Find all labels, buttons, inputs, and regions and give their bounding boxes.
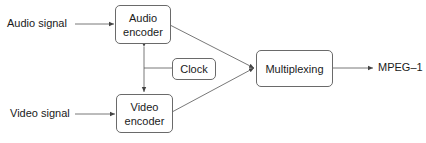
video-signal-label: Video signal (10, 107, 70, 120)
multiplexing-label: Multiplexing (265, 62, 323, 76)
video-encoder-block: Video encoder (116, 94, 173, 133)
audio-encoder-line1: Audio (123, 11, 163, 25)
audio-encoder-block: Audio encoder (115, 5, 171, 44)
clock-label: Clock (180, 62, 208, 76)
audio-signal-label: Audio signal (7, 17, 67, 30)
video-encoder-line1: Video (125, 100, 165, 114)
video-encoder-line2: encoder (125, 114, 165, 128)
multiplexing-block: Multiplexing (256, 50, 333, 87)
clock-block: Clock (172, 58, 216, 80)
mpeg1-output-label: MPEG–1 (378, 61, 423, 74)
audio-encoder-line2: encoder (123, 25, 163, 39)
